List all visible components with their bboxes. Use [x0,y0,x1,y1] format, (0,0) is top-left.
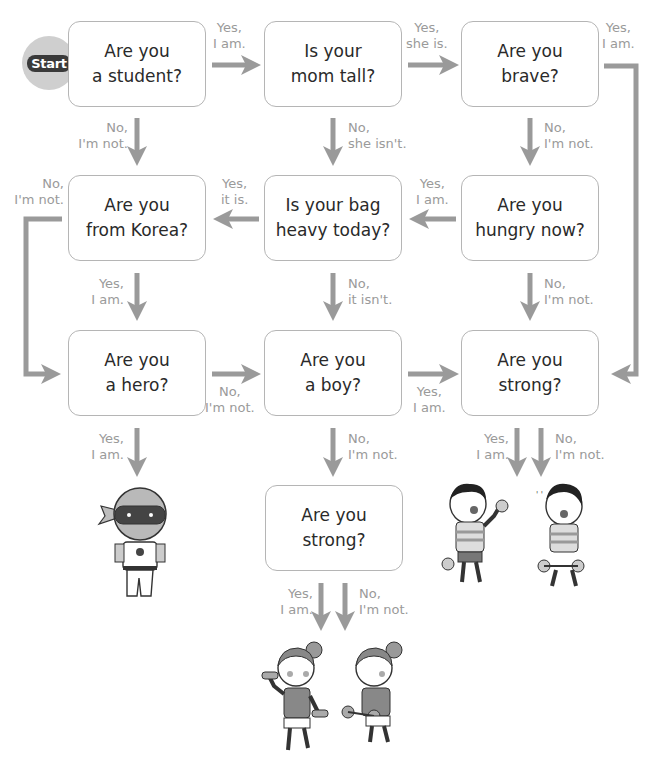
label-bag-yes: Yes,it is. [221,176,248,208]
node-mom-tall: Is your mom tall? [264,21,402,107]
node-text: from Korea? [86,218,188,243]
arrow-korea-to-hero [26,219,62,374]
arrow-brave-to-strong [604,66,636,374]
node-strong-bottom: Are you strong? [265,485,403,571]
label-brave-yes: Yes,I am. [602,20,635,52]
node-text: heavy today? [276,218,391,243]
label-student-no: No,I'm not. [78,120,128,152]
node-korea: Are you from Korea? [68,175,206,261]
node-text: Are you [104,193,169,218]
node-text: Are you [497,39,562,64]
label-strong-right-no: No,I'm not. [555,431,605,463]
label-boy-no: No,I'm not. [348,431,398,463]
node-text: a boy? [305,373,361,398]
node-text: Is your bag [286,193,381,218]
node-text: Are you [104,348,169,373]
node-hero: Are you a hero? [68,330,206,416]
node-text: strong? [498,373,561,398]
label-korea-no: No,I'm not. [14,176,64,208]
label-hungry-yes: Yes,I am. [416,176,449,208]
label-hero-yes: Yes,I am. [91,431,124,463]
label-mom-yes: Yes,she is. [406,20,448,52]
node-text: Are you [301,503,366,528]
node-boy: Are you a boy? [264,330,402,416]
node-text: Are you [300,348,365,373]
node-text: Are you [104,39,169,64]
label-mom-no: No,she isn't. [348,120,407,152]
node-student: Are you a student? [68,21,206,107]
label-bag-no: No,it isn't. [348,276,392,308]
strong-boy-lifting-dumbbells [440,476,512,588]
tired-boy-lifting-dumbbells: ' ' [530,478,592,590]
node-brave: Are you brave? [461,21,599,107]
start-label: Start [27,55,70,72]
tired-girl-lifting-dumbbells [340,636,404,748]
label-strong-bottom-no: No,I'm not. [359,586,409,618]
node-text: a hero? [105,373,168,398]
node-bag-heavy: Is your bag heavy today? [264,175,402,261]
node-text: Are you [497,193,562,218]
node-strong-right: Are you strong? [461,330,599,416]
node-text: brave? [501,64,559,89]
node-text: strong? [302,528,365,553]
node-text: mom tall? [291,64,375,89]
label-strong-right-yes: Yes,I am. [476,431,509,463]
label-student-yes: Yes,I am. [213,20,246,52]
label-hungry-no: No,I'm not. [544,276,594,308]
node-hungry: Are you hungry now? [461,175,599,261]
label-strong-bottom-yes: Yes,I am. [280,586,313,618]
node-text: a student? [92,64,182,89]
svg-text:' ': ' ' [536,491,543,500]
hero-character-illustration [95,478,185,603]
label-boy-yes: Yes,I am. [413,384,446,416]
label-brave-no: No,I'm not. [544,120,594,152]
node-text: hungry now? [475,218,585,243]
label-hero-no: No,I'm not. [205,384,255,416]
node-text: Is your [304,39,362,64]
strong-girl-lifting-dumbbells [260,638,332,756]
label-korea-yes: Yes,I am. [91,276,124,308]
node-text: Are you [497,348,562,373]
